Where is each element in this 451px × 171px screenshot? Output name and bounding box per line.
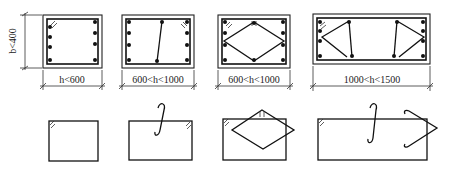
- section-2: 600<h<1000: [119, 15, 197, 90]
- single-leg-tie: [157, 21, 162, 62]
- detail-4: [318, 104, 437, 160]
- stirrup-diagram: b<400 h<600: [0, 0, 451, 171]
- right-v-stirrup: [397, 21, 424, 57]
- diamond-stirrup: [224, 22, 284, 61]
- hook-icon: [50, 121, 55, 128]
- section-3: 600<h<1000: [215, 15, 293, 90]
- section-label: 1000<h<1500: [344, 74, 400, 85]
- section-label: 600<h<1000: [228, 74, 279, 85]
- left-v-stirrup: [322, 21, 349, 57]
- section-4: 1000<h<1500: [310, 14, 433, 91]
- dimension-b: b<400: [7, 12, 42, 70]
- section-label: h<600: [59, 74, 85, 85]
- hook-icon: [226, 21, 256, 28]
- s-hook-tie: [368, 104, 377, 143]
- detail-3: [223, 110, 294, 160]
- width-label: b<400: [7, 28, 18, 54]
- section-label: 600<h<1000: [132, 74, 183, 85]
- section-1: h<600: [40, 15, 105, 90]
- hook-icon: [186, 122, 191, 129]
- s-hook-tie: [155, 104, 165, 136]
- diamond-stirrup: [232, 110, 294, 149]
- open-v-stirrup: [404, 110, 437, 147]
- detail-2: [129, 104, 192, 160]
- detail-1: [49, 121, 98, 161]
- hook-icon: [319, 119, 324, 126]
